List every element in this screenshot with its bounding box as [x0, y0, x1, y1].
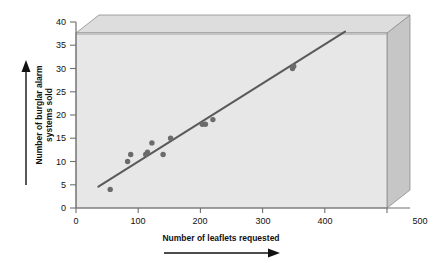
y-tick-label: 30: [56, 64, 66, 74]
scatter-plot-figure: 40 35 30 25 20 15 10 5 0 0 100 200 300 4…: [0, 0, 435, 263]
y-tick-label: 40: [56, 17, 66, 27]
data-point: [149, 140, 154, 145]
y-direction-arrow-icon: [22, 60, 31, 185]
data-point: [108, 187, 113, 192]
data-point: [203, 122, 208, 127]
data-point: [145, 150, 150, 155]
x-axis-ticks: [76, 208, 387, 213]
y-tick-label: 20: [56, 110, 66, 120]
x-axis-tick-labels: 0 100 200 300 400 500: [73, 216, 427, 226]
y-axis-tick-labels: 40 35 30 25 20 15 10 5 0: [56, 17, 66, 213]
x-direction-arrow-icon: [164, 249, 280, 258]
data-point: [168, 136, 173, 141]
x-tick-label: 0: [73, 216, 78, 226]
x-tick-label: 100: [130, 216, 145, 226]
x-tick-label: 300: [255, 216, 270, 226]
y-tick-label: 35: [56, 40, 66, 50]
panel-side-face: [387, 15, 410, 208]
data-point: [210, 117, 215, 122]
y-tick-label: 0: [61, 203, 66, 213]
y-tick-label: 15: [56, 133, 66, 143]
y-tick-label: 5: [61, 180, 66, 190]
data-point: [125, 159, 130, 164]
y-axis-title-line1: Number of burglar alarm: [34, 65, 44, 165]
y-axis-ticks: [70, 22, 76, 208]
x-axis-title: Number of leaflets requested: [162, 233, 279, 243]
plot-area-background: [76, 33, 387, 208]
x-tick-label: 500: [412, 216, 427, 226]
data-point: [291, 63, 296, 68]
panel-top-face: [76, 15, 410, 33]
y-tick-label: 25: [56, 87, 66, 97]
x-tick-label: 400: [317, 216, 332, 226]
data-point: [128, 152, 133, 157]
y-axis-title-line2: systems sold: [44, 88, 54, 142]
x-tick-label: 200: [192, 216, 207, 226]
y-tick-label: 10: [56, 157, 66, 167]
data-point: [160, 152, 165, 157]
